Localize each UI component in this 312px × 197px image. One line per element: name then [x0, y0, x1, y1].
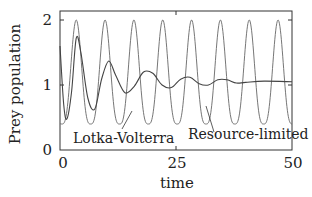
- y-tick-label-0: 0: [42, 141, 52, 159]
- x-tick-label-25: 25: [167, 154, 186, 172]
- annotation-leader-lotka-volterra: [122, 111, 132, 129]
- annotation-lotka-volterra: Lotka-Volterra: [73, 130, 174, 146]
- chart: 2 1 0 0 25 50 time Prey population Lotka…: [0, 0, 312, 197]
- y-tick-label-2: 2: [42, 11, 52, 29]
- x-tick-label-0: 0: [58, 154, 68, 172]
- x-tick-label-50: 50: [283, 154, 302, 172]
- y-axis-label: Prey population: [6, 23, 24, 144]
- y-ticks: [60, 20, 292, 85]
- annotation-resource-limited: Resource-limited: [188, 126, 309, 142]
- series-resource-limited: [60, 36, 292, 119]
- y-tick-label-1: 1: [42, 76, 52, 94]
- x-axis-label: time: [160, 174, 194, 192]
